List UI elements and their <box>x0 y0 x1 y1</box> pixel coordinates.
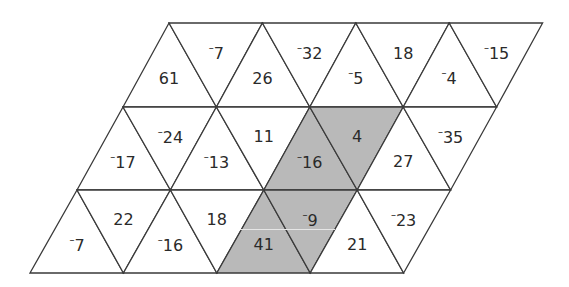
cell-value: 4 <box>352 127 362 146</box>
triangle-grid: 61–726–32–518–4–15–17–24–1311–16427–35–7… <box>0 0 569 287</box>
cell-value: 11 <box>254 127 274 146</box>
cell-value: 18 <box>393 44 413 63</box>
cell-value: 21 <box>347 235 367 254</box>
cell-value: 22 <box>113 210 133 229</box>
cell-value: 18 <box>207 210 227 229</box>
triangles-layer <box>30 23 543 273</box>
cell-value: 26 <box>252 69 272 88</box>
cell-value: 41 <box>254 235 274 254</box>
cell-value: 61 <box>159 69 179 88</box>
cell-value: 27 <box>393 152 413 171</box>
